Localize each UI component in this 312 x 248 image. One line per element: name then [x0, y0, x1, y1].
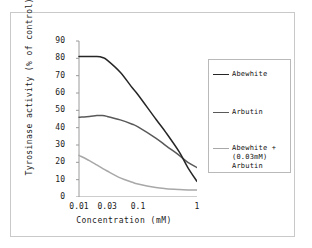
plot-svg: [69, 29, 197, 197]
legend-swatch-line: [213, 74, 229, 75]
x-tick-label: 0.1: [121, 203, 155, 211]
y-tick-label: 40: [43, 124, 65, 132]
plot-area: [69, 29, 197, 197]
axis-lines: [79, 41, 197, 197]
x-tick-label: 1: [180, 203, 214, 211]
legend-item-label: Abewhite + (0.03mM) Arbutin: [232, 144, 276, 171]
x-axis-title: Concentration (mM): [49, 216, 199, 225]
legend-swatch-line: [213, 112, 229, 113]
series-line: [79, 57, 197, 182]
y-tick-label: 50: [43, 106, 65, 114]
x-tick-label: 0.03: [90, 203, 124, 211]
chart-legend: AbewhiteArbutinAbewhite + (0.03mM) Arbut…: [208, 59, 291, 173]
axis-tick-marks: [76, 41, 197, 197]
legend-item-label: Arbutin: [232, 108, 263, 117]
y-tick-label: 10: [43, 176, 65, 184]
y-tick-label: 90: [43, 37, 65, 45]
legend-item-label: Abewhite: [232, 70, 267, 79]
legend-item[interactable]: Abewhite: [213, 70, 267, 79]
data-series: [79, 57, 197, 191]
chart-figure: Tyrosinase activity (% of control) Conce…: [10, 12, 295, 237]
series-line: [79, 155, 197, 190]
y-tick-label: 0: [43, 193, 65, 201]
y-tick-label: 20: [43, 158, 65, 166]
y-tick-label: 60: [43, 89, 65, 97]
legend-swatch-line: [213, 148, 229, 149]
series-line: [79, 115, 197, 167]
legend-item[interactable]: Arbutin: [213, 108, 263, 117]
y-tick-label: 30: [43, 141, 65, 149]
y-tick-label: 70: [43, 72, 65, 80]
y-axis-title: Tyrosinase activity (% of control): [25, 16, 34, 176]
legend-item[interactable]: Abewhite + (0.03mM) Arbutin: [213, 144, 276, 171]
y-tick-label: 80: [43, 54, 65, 62]
